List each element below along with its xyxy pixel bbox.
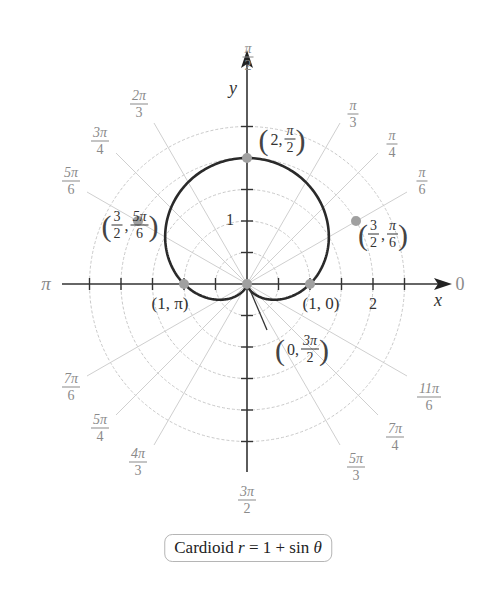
y-tick-label-1: 1 xyxy=(226,211,234,229)
angle-label-3pi-over-2: 3π2 xyxy=(238,485,256,516)
angle-label-2pi-over-3: 2π3 xyxy=(130,89,148,120)
numerator: 5π xyxy=(91,413,109,429)
denominator: 6 xyxy=(136,226,143,241)
angle-label-7pi-over-6: 7π6 xyxy=(62,372,80,403)
numerator: 5π xyxy=(130,210,148,226)
point-label-0-3pi-over-2: ( 0, 3π2 ) xyxy=(275,334,329,365)
angle-label-pi-over-6: π6 xyxy=(416,166,427,197)
angle-label-pi-over-2: π2 xyxy=(242,42,253,73)
denominator: 2 xyxy=(243,501,250,516)
denominator: 3 xyxy=(349,115,356,130)
point-label-2-pi-over-2: ( 2, π2 ) xyxy=(258,124,305,155)
numerator: π xyxy=(284,124,295,140)
angle-label-pi: π xyxy=(41,277,51,291)
paren-close: ) xyxy=(319,334,329,364)
paren-open: ( xyxy=(101,210,111,240)
paren-open: ( xyxy=(275,334,285,364)
denominator: 6 xyxy=(425,398,432,413)
denominator: 3 xyxy=(352,468,359,483)
denominator: 3 xyxy=(134,463,141,478)
point-label-3-2-5pi-over-6: ( 32, 5π6 ) xyxy=(101,210,158,241)
numerator: 7π xyxy=(386,422,404,438)
denominator: 2 xyxy=(244,58,251,73)
denominator: 4 xyxy=(96,429,103,444)
numerator: 3π xyxy=(238,485,256,501)
caption-theta: θ xyxy=(313,538,321,557)
numerator: 3 xyxy=(368,219,379,235)
angle-label-5pi-over-3: 5π3 xyxy=(347,452,365,483)
angle-label-zero: 0 xyxy=(456,277,465,291)
caption-equation: = 1 + sin xyxy=(245,538,314,557)
denominator: 6 xyxy=(418,182,425,197)
point-label-1-0: (1, 0) xyxy=(303,294,340,314)
numerator: π xyxy=(347,99,358,115)
denominator: 4 xyxy=(96,142,103,157)
numerator: 4π xyxy=(129,447,147,463)
denominator: 6 xyxy=(67,182,74,197)
numerator: π xyxy=(242,42,253,58)
denominator: 2 xyxy=(370,235,377,250)
angle-label-3pi-over-4: 3π4 xyxy=(91,126,109,157)
numerator: 7π xyxy=(62,372,80,388)
paren-close: ) xyxy=(296,124,306,154)
point-label-3-2-pi-over-6: ( 32, π6 ) xyxy=(358,219,408,250)
angle-label-4pi-over-3: 4π3 xyxy=(129,447,147,478)
angle-label-11pi-over-6: 11π6 xyxy=(417,382,441,413)
paren-open: ( xyxy=(358,219,368,249)
numerator: 5π xyxy=(347,452,365,468)
x-tick-label-2: 2 xyxy=(369,295,377,313)
radius-value: 0, xyxy=(287,340,299,358)
point-label-1-pi: (1, π) xyxy=(152,294,189,314)
denominator: 3 xyxy=(135,105,142,120)
numerator: 11π xyxy=(417,382,441,398)
x-axis-label: x xyxy=(434,290,442,311)
numerator: 3π xyxy=(301,334,319,350)
numerator: π xyxy=(416,166,427,182)
chart-caption: Cardioid r = 1 + sin θ xyxy=(164,534,332,562)
numerator: 3π xyxy=(91,126,109,142)
numerator: 2π xyxy=(130,89,148,105)
angle-label-5pi-over-4: 5π4 xyxy=(91,413,109,444)
paren-open: ( xyxy=(258,124,268,154)
paren-close: ) xyxy=(398,219,408,249)
numerator: 5π xyxy=(62,166,80,182)
numerator: π xyxy=(387,219,398,235)
denominator: 2 xyxy=(113,226,120,241)
denominator: 4 xyxy=(391,438,398,453)
denominator: 6 xyxy=(389,235,396,250)
denominator: 6 xyxy=(67,388,74,403)
angle-label-5pi-over-6: 5π6 xyxy=(62,166,80,197)
y-axis-label: y xyxy=(229,78,237,99)
paren-close: ) xyxy=(149,210,159,240)
denominator: 2 xyxy=(306,350,313,365)
radius-value: 2, xyxy=(270,130,282,148)
numerator: 3 xyxy=(111,210,122,226)
angle-label-7pi-over-4: 7π4 xyxy=(386,422,404,453)
denominator: 2 xyxy=(286,140,293,155)
caption-prefix: Cardioid xyxy=(174,538,238,557)
numerator: π xyxy=(386,129,397,145)
angle-label-pi-over-3: π3 xyxy=(347,99,358,130)
angle-label-pi-over-4: π4 xyxy=(386,129,397,160)
denominator: 4 xyxy=(388,145,395,160)
